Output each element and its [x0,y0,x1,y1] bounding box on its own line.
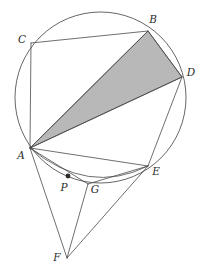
vertex-label-P: P [59,181,68,193]
vertex-label-C: C [18,33,26,45]
vertex-label-E: E [151,165,160,177]
vertex-label-D: D [186,66,196,78]
segment-AE [30,148,148,166]
segment-CB [31,31,148,43]
point-marker-P-icon [66,174,71,179]
shaded-triangle-ABD [30,31,182,148]
segment-AF [30,148,67,258]
segment-AG [30,148,88,184]
segment-GF [67,184,88,258]
arc-A-P-E [30,148,148,178]
geometry-canvas: A B C D E F G P [0,0,203,270]
segment-EF [67,166,148,258]
segment-CA [30,43,31,148]
geometry-figure: A B C D E F G P [0,0,203,270]
vertex-label-F: F [52,251,61,263]
vertex-label-A: A [16,149,25,161]
vertex-label-B: B [148,13,157,25]
vertex-label-G: G [91,183,99,195]
